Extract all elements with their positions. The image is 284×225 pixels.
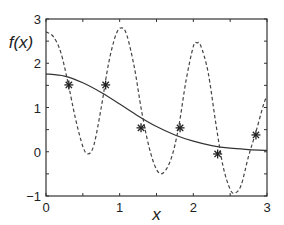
x-tick-label: 1: [116, 200, 123, 215]
x-tick-label: 0: [42, 200, 49, 215]
x-tick-label: 3: [263, 200, 270, 215]
asterisk-marker: [213, 149, 222, 158]
dashed-curve: [46, 28, 267, 194]
y-tick-label: 2: [34, 56, 41, 71]
y-tick-label: 0: [34, 145, 41, 160]
asterisk-marker: [101, 80, 110, 89]
ticks: [46, 19, 267, 196]
y-tick-label: −1: [26, 189, 41, 204]
x-axis-label: x: [151, 205, 161, 224]
asterisk-marker: [251, 130, 260, 139]
curves: [46, 28, 267, 194]
chart: 0123−10123 x f(x): [0, 0, 284, 225]
asterisk-marker: [137, 123, 146, 132]
y-tick-label: 1: [34, 101, 41, 116]
tick-labels: 0123−10123: [26, 12, 270, 215]
asterisk-marker: [64, 80, 73, 89]
markers: [64, 80, 260, 158]
asterisk-marker: [176, 123, 185, 132]
y-tick-label: 3: [34, 12, 41, 27]
axes-box: [46, 19, 267, 196]
y-axis-label: f(x): [9, 33, 34, 52]
solid-curve: [46, 74, 267, 151]
x-tick-label: 2: [190, 200, 197, 215]
